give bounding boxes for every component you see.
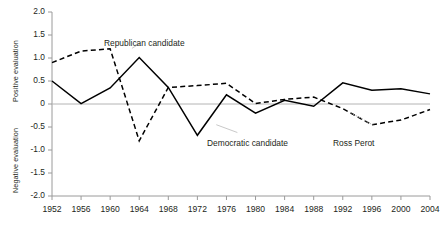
series-line-republican (52, 58, 430, 136)
chart-container: Positive evaluation Negative evaluation … (0, 0, 440, 233)
plot-area (0, 0, 440, 233)
ross-perot-label: Ross Perot (333, 138, 374, 148)
leader-line-democratic (216, 125, 237, 133)
x-axis-ticks (52, 196, 430, 200)
y-axis-ticks (48, 12, 52, 196)
series-line-democratic (52, 49, 430, 141)
leader-line-ross-perot (350, 112, 374, 125)
democratic-candidate-label: Democratic candidate (207, 138, 288, 148)
republican-candidate-label: Republican candidate (104, 38, 185, 48)
